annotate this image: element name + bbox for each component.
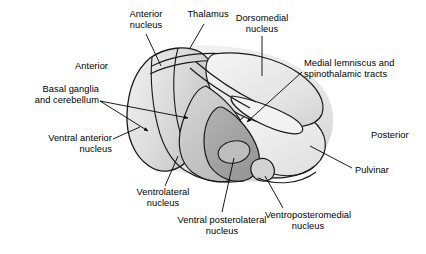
ventroposteromedial-region	[251, 158, 275, 181]
label-thalamus: Thalamus	[187, 9, 228, 20]
label-anterior-nucleus: Anterior nucleus	[130, 9, 163, 31]
label-ventral-anterior-nucleus: Ventral anterior nucleus	[48, 133, 112, 155]
label-basal-ganglia-cerebellum: Basal ganglia and cerebellum	[35, 84, 99, 106]
label-dorsomedial-nucleus: Dorsomedial nucleus	[236, 13, 289, 35]
label-ventroposteromedial-nucleus: Ventroposteromedial nucleus	[265, 210, 351, 232]
thalamus-body	[127, 45, 333, 183]
label-posterior: Posterior	[371, 130, 409, 141]
leader-ventroposteromedial	[265, 176, 283, 208]
figure-canvas: Anterior nucleus Thalamus Dorsomedial nu…	[0, 0, 426, 254]
label-ventral-posterolateral-nucleus: Ventral posterolateral nucleus	[178, 215, 267, 237]
label-anterior: Anterior	[75, 61, 108, 72]
label-pulvinar: Pulvinar	[355, 165, 389, 176]
label-medial-lemniscus: Medial lemniscus and spinothalamic tract…	[304, 58, 394, 80]
label-ventrolateral-nucleus: Ventrolateral nucleus	[137, 187, 190, 209]
leader-thalamus	[190, 24, 204, 48]
